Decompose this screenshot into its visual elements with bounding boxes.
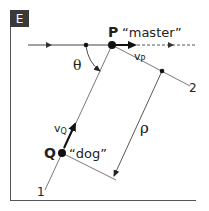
line-2 (112, 45, 190, 86)
path-arrow-icon (168, 42, 174, 48)
label-rho: ρ (140, 119, 149, 137)
panel-badge: E (10, 10, 29, 27)
label-line-2: 2 (189, 81, 197, 95)
line2-dot (160, 69, 165, 74)
label-master: “master” (122, 25, 182, 40)
theta-arc (86, 46, 100, 71)
point-Q (58, 149, 66, 157)
label-theta: θ (73, 57, 81, 73)
label-vP: vP (134, 50, 146, 64)
point-P (108, 41, 116, 49)
label-P: P (108, 24, 118, 40)
label-line-1: 1 (37, 185, 45, 199)
label-vQ: vQ (54, 122, 67, 136)
reference-dot (84, 43, 89, 48)
path-arrow-icon (46, 42, 52, 48)
pursuit-diagram: E P “master” Q “dog” θ ρ vP vQ 1 2 (0, 0, 209, 211)
rho-arrow (114, 71, 162, 176)
panel-frame (10, 26, 196, 201)
panel-label: E (16, 12, 24, 26)
label-Q: Q (44, 145, 56, 161)
label-dog: “dog” (69, 146, 107, 161)
